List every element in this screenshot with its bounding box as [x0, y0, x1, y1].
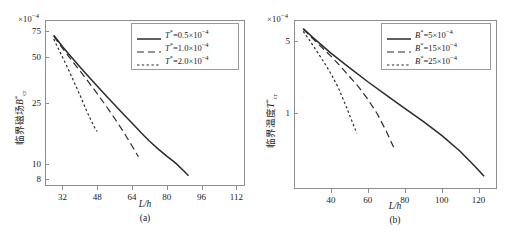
x-tick-label: 60 — [363, 195, 372, 205]
legend-key-dashed — [136, 42, 162, 51]
x-tick-mark — [236, 186, 237, 190]
x-tick-mark — [202, 186, 203, 190]
legend-label: B*=15×10−4 — [415, 41, 457, 53]
legend-label: B*=25×10−4 — [415, 54, 457, 66]
legend-b: B*=5×10−4B*=15×10−4B*=25×10−4 — [381, 23, 491, 70]
legend-label: T*=2.0×10−4 — [165, 54, 209, 66]
legend-key-dashed — [386, 42, 412, 51]
y-tick-label: 5 — [260, 36, 290, 46]
panel-b: ×10−4 51 406080100120 临界温度T*cr L/h (b) B… — [253, 0, 506, 243]
x-tick-mark — [368, 189, 369, 193]
series-line — [54, 36, 139, 157]
panel-caption-b: (b) — [389, 215, 400, 225]
legend-item: T*=0.5×10−4 — [136, 27, 233, 40]
x-tick-label: 96 — [197, 192, 206, 202]
legend-item: B*=25×10−4 — [386, 53, 485, 66]
x-tick-label: 64 — [127, 192, 136, 202]
x-tick-label: 80 — [162, 192, 171, 202]
y-tick-mark — [45, 31, 49, 32]
x-tick-label: 48 — [93, 192, 102, 202]
legend-item: T*=2.0×10−4 — [136, 53, 233, 66]
series-line — [303, 31, 357, 133]
legend-label: B*=5×10−4 — [415, 28, 453, 40]
x-tick-label: 112 — [230, 192, 243, 202]
x-axis-label-b: L/h — [389, 201, 402, 211]
legend-key-dotted — [386, 55, 412, 64]
panel-a: ×10−4 755025108 3248648096112 临界磁场B*cr L… — [0, 0, 253, 243]
legend-a: T*=0.5×10−4T*=1.0×10−4T*=2.0×10−4 — [131, 23, 239, 70]
x-tick-mark — [167, 186, 168, 190]
x-tick-label: 40 — [326, 195, 335, 205]
figure-container: ×10−4 755025108 3248648096112 临界磁场B*cr L… — [0, 0, 507, 243]
x-tick-mark — [97, 186, 98, 190]
y-tick-mark — [294, 41, 298, 42]
y-tick-mark — [45, 57, 49, 58]
y-tick-label: 50 — [11, 52, 41, 62]
legend-label: T*=0.5×10−4 — [165, 28, 209, 40]
x-tick-mark — [132, 186, 133, 190]
x-tick-label: 32 — [58, 192, 67, 202]
x-tick-mark — [62, 186, 63, 190]
legend-item: B*=5×10−4 — [386, 27, 485, 40]
legend-key-dotted — [136, 55, 162, 64]
x-tick-label: 100 — [435, 195, 449, 205]
y-axis-label-b: 临界温度T*cr — [263, 94, 278, 148]
legend-key-solid — [386, 29, 412, 38]
y-axis-label-a: 临界磁场B*cr — [12, 91, 27, 145]
x-tick-mark — [442, 189, 443, 193]
legend-item: T*=1.0×10−4 — [136, 40, 233, 53]
x-tick-mark — [331, 189, 332, 193]
y-tick-label: 8 — [11, 174, 41, 184]
legend-label: T*=1.0×10−4 — [165, 41, 209, 53]
legend-key-solid — [136, 29, 162, 38]
panel-caption-a: (a) — [140, 213, 151, 223]
x-axis-label-a: L/h — [139, 199, 152, 209]
x-tick-label: 120 — [472, 195, 486, 205]
x-tick-mark — [405, 189, 406, 193]
x-tick-mark — [479, 189, 480, 193]
y-tick-label: 75 — [11, 26, 41, 36]
y-tick-mark — [45, 103, 49, 104]
legend-item: B*=15×10−4 — [386, 40, 485, 53]
y-tick-label: 10 — [11, 159, 41, 169]
y-tick-mark — [294, 113, 298, 114]
y-tick-mark — [45, 164, 49, 165]
y-tick-mark — [45, 179, 49, 180]
